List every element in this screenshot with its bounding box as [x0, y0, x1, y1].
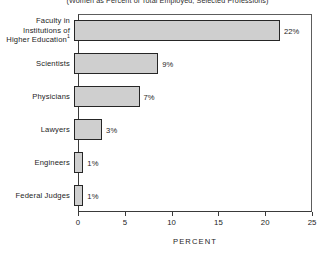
- bar-row-label: Scientists: [0, 59, 74, 68]
- bar[interactable]: 1%: [74, 185, 83, 206]
- bar-value-label: 1%: [87, 158, 98, 167]
- bar-row: Federal Judges1%: [0, 179, 335, 212]
- bar-value-label: 9%: [162, 59, 173, 68]
- x-axis-tick-label: 5: [123, 218, 127, 227]
- x-axis: PERCENT 0510152025: [78, 212, 312, 260]
- bar-row-label: Faculty inInstitutions ofHigher Educatio…: [0, 16, 74, 44]
- bar-value-label: 3%: [106, 125, 117, 134]
- x-axis-tick: [172, 212, 173, 216]
- x-axis-tick: [125, 212, 126, 216]
- bar-value-label: 1%: [87, 191, 98, 200]
- bar-row-label: Engineers: [0, 158, 74, 167]
- bar-row: Physicians7%: [0, 80, 335, 113]
- x-axis-tick-label: 15: [214, 218, 223, 227]
- x-axis-tick-label: 20: [261, 218, 270, 227]
- bar[interactable]: 1%: [74, 152, 83, 173]
- bar[interactable]: 9%: [74, 53, 158, 74]
- x-axis-tick: [312, 212, 313, 216]
- x-axis-tick-label: 0: [76, 218, 80, 227]
- bar-row-label: Federal Judges: [0, 191, 74, 200]
- bar-row-label: Lawyers: [0, 125, 74, 134]
- bar-value-label: 7%: [144, 92, 155, 101]
- footnote-marker: 1: [67, 34, 70, 40]
- bar-track: 1%: [74, 146, 335, 179]
- x-axis-tick-label: 10: [167, 218, 176, 227]
- x-axis-tick: [218, 212, 219, 216]
- x-axis-tick: [265, 212, 266, 216]
- bar-track: 3%: [74, 113, 335, 146]
- bar[interactable]: 22%: [74, 20, 280, 41]
- x-axis-title: PERCENT: [78, 237, 312, 246]
- bar-row: Faculty inInstitutions ofHigher Educatio…: [0, 14, 335, 47]
- bar[interactable]: 7%: [74, 86, 140, 107]
- bar-row: Scientists9%: [0, 47, 335, 80]
- bar-value-label: 22%: [284, 26, 300, 35]
- bar-track: 22%: [74, 14, 335, 47]
- chart-container: (Women as Percent of Total Employed, Sel…: [0, 0, 335, 260]
- x-axis-tick: [78, 212, 79, 216]
- bar-rows: Faculty inInstitutions ofHigher Educatio…: [0, 14, 335, 212]
- bar-track: 9%: [74, 47, 335, 80]
- bar-row-label: Physicians: [0, 92, 74, 101]
- bar-track: 7%: [74, 80, 335, 113]
- bar-track: 1%: [74, 179, 335, 212]
- bar-row: Lawyers3%: [0, 113, 335, 146]
- x-axis-tick-label: 25: [308, 218, 317, 227]
- bar[interactable]: 3%: [74, 119, 102, 140]
- bar-row: Engineers1%: [0, 146, 335, 179]
- chart-title: (Women as Percent of Total Employed, Sel…: [0, 0, 335, 5]
